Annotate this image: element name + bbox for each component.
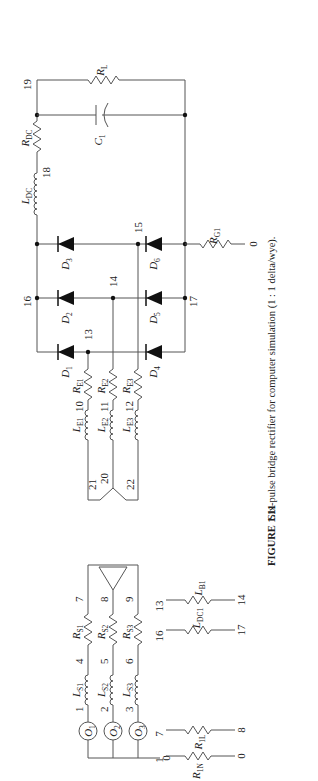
svg-text:7: 7: [153, 731, 165, 737]
svg-text:LS1: LS1: [70, 683, 85, 698]
resistor-rdc: RDC: [19, 121, 41, 152]
svg-text:16: 16: [21, 296, 33, 308]
svg-text:C1: C1: [92, 134, 107, 145]
svg-text:6: 6: [123, 658, 135, 664]
resistor-re3: RE3: [120, 369, 142, 400]
svg-text:LDC: LDC: [19, 188, 34, 206]
svg-text:21: 21: [86, 479, 98, 490]
svg-text:13: 13: [153, 600, 165, 612]
svg-text:LE3: LE3: [120, 418, 135, 434]
svg-text:RE1: RE1: [70, 378, 85, 394]
svg-text:20: 20: [98, 473, 110, 485]
svg-text:1: 1: [73, 707, 85, 713]
aux-resistor-16-17: 16 17 LDC1: [153, 608, 247, 642]
resistor-rl: RL: [88, 64, 119, 84]
diode-d6: D6: [146, 236, 162, 271]
svg-text:RL: RL: [94, 64, 109, 77]
svg-text:RS3: RS3: [120, 624, 135, 640]
svg-text:0: 0: [247, 241, 259, 247]
svg-text:R1N: R1N: [190, 762, 205, 779]
svg-text:15: 15: [132, 222, 144, 234]
inductor-le1: LE1: [70, 410, 88, 440]
svg-text:4: 4: [73, 658, 85, 664]
svg-text:O2: O2: [107, 725, 122, 737]
source-o2: O2: [104, 722, 122, 740]
secondary-section: 21 20 22 LE1 LE2 LE3 10 11 12 RE1 RE2: [70, 244, 142, 500]
svg-text:17: 17: [187, 296, 199, 308]
dc-link: LDC 18 RDC 19 RL C1: [19, 64, 187, 220]
resistor-re1: RE1: [70, 369, 92, 400]
svg-text:D4: D4: [147, 366, 162, 379]
svg-text:22: 22: [124, 479, 136, 490]
svg-text:D1: D1: [59, 366, 74, 379]
caption-text: Six-pulse bridge rectifier for computer …: [266, 237, 278, 520]
diode-bridge: 13 14 15 16 17 D1 D2 D3 D4 D5 D6: [21, 115, 259, 379]
svg-text:LE2: LE2: [95, 418, 110, 434]
svg-text:2: 2: [98, 707, 110, 713]
delta-winding: [88, 565, 138, 590]
source-o3: O3: [129, 722, 147, 740]
figure-caption: FIGURE 1.11 Six-pulse bridge rectifier f…: [266, 237, 278, 566]
svg-text:D3: D3: [59, 258, 74, 271]
svg-text:13: 13: [82, 329, 94, 341]
svg-text:18: 18: [40, 167, 52, 179]
svg-text:D2: D2: [59, 312, 74, 325]
svg-text:7: 7: [73, 596, 85, 602]
inductor-ldc: LDC: [19, 173, 37, 215]
svg-text:14: 14: [107, 276, 119, 288]
circuit-diagram: 0 O1 O2 O3 1 2 3 LS1 LS2: [0, 0, 318, 781]
svg-text:3: 3: [123, 706, 135, 712]
inductor-ls1: LS1: [70, 675, 88, 705]
svg-text:LE1: LE1: [70, 418, 85, 434]
resistor-rs1: RS1: [70, 614, 92, 645]
svg-text:16: 16: [153, 630, 165, 642]
svg-text:LS3: LS3: [120, 683, 135, 698]
svg-text:D5: D5: [147, 312, 162, 325]
diode-d1: D1: [58, 344, 74, 379]
svg-text:RS2: RS2: [95, 624, 110, 640]
capacitor-c1: C1: [92, 103, 108, 146]
svg-text:17: 17: [235, 624, 247, 636]
inductor-ls3: LS3: [120, 675, 138, 705]
svg-text:5: 5: [98, 658, 110, 664]
source-o1: O1: [79, 722, 97, 740]
svg-text:O3: O3: [132, 725, 147, 737]
diode-d2: D2: [58, 290, 74, 325]
diode-d3: D3: [58, 236, 74, 271]
diode-d4: D4: [146, 344, 162, 379]
inductor-le3: LE3: [120, 410, 138, 440]
auxiliary-resistors: 1 0 R1N R1L 7 8 16 17 LDC1 13: [153, 580, 247, 780]
svg-text:11: 11: [98, 401, 110, 412]
inductor-le2: LE2: [95, 410, 113, 440]
svg-text:D6: D6: [147, 258, 162, 271]
svg-text:RDC: RDC: [19, 129, 34, 147]
resistor-rs3: RS3: [120, 614, 142, 645]
svg-text:14: 14: [235, 594, 247, 606]
svg-text:R1L: R1L: [192, 734, 207, 750]
svg-text:10: 10: [73, 401, 85, 413]
svg-text:9: 9: [123, 596, 135, 602]
svg-text:RS1: RS1: [70, 624, 85, 640]
inductor-ls2: LS2: [95, 675, 113, 705]
resistor-rg1: RG1 0: [185, 228, 259, 248]
svg-text:LB1: LB1: [192, 580, 207, 596]
resistor-re2: RE2: [95, 369, 117, 400]
svg-text:8: 8: [98, 596, 110, 602]
svg-text:O1: O1: [82, 725, 97, 737]
svg-text:1: 1: [153, 757, 165, 763]
svg-text:0: 0: [235, 753, 247, 759]
svg-text:LS2: LS2: [95, 683, 110, 698]
aux-resistor-13-14: 13 14 LB1: [153, 580, 247, 611]
diode-d5: D5: [146, 290, 162, 325]
resistor-rs2: RS2: [95, 614, 117, 645]
svg-text:12: 12: [123, 401, 135, 412]
svg-text:8: 8: [235, 727, 247, 733]
svg-text:RE3: RE3: [120, 378, 135, 394]
svg-text:RE2: RE2: [95, 378, 110, 394]
svg-text:19: 19: [21, 79, 33, 91]
